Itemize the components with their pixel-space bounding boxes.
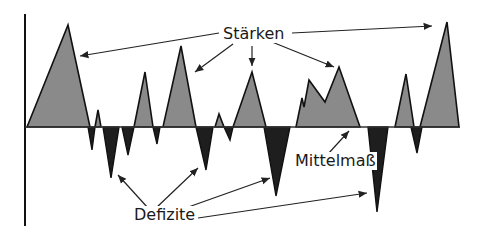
strengths-label: Stärken [221, 25, 287, 43]
strengths-deficits-diagram: Stärken Defizite Mittelmaß [0, 0, 481, 236]
average-label: Mittelmaß [294, 152, 377, 170]
deficits-label: Defizite [132, 206, 197, 224]
